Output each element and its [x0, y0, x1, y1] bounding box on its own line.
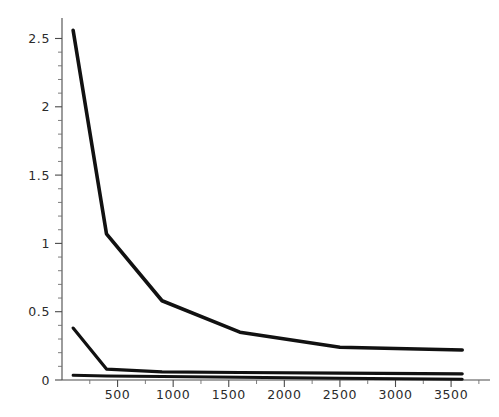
x-tick-label: 500 [105, 387, 131, 402]
y-axis-tick-labels: 00.511.522.5 [28, 31, 50, 388]
series-line-series-1 [73, 30, 462, 350]
line-chart-plot: 00.511.522.5 500100015002000250030003500 [0, 0, 499, 417]
y-tick-label: 0.5 [28, 304, 50, 319]
axes-group [62, 18, 490, 380]
x-tick-label: 3500 [434, 387, 468, 402]
y-tick-label: 0 [41, 373, 50, 388]
x-tick-label: 2000 [267, 387, 301, 402]
x-tick-label: 2500 [323, 387, 357, 402]
y-tick-label: 2.5 [28, 31, 50, 46]
x-axis-tick-labels: 500100015002000250030003500 [105, 387, 468, 402]
y-tick-label: 1.5 [28, 168, 50, 183]
x-tick-label: 1500 [212, 387, 246, 402]
y-tick-label: 2 [41, 99, 50, 114]
x-axis-ticks [90, 380, 479, 387]
x-tick-label: 3000 [378, 387, 412, 402]
x-tick-label: 1000 [156, 387, 190, 402]
chart-figure: 00.511.522.5 500100015002000250030003500 [0, 0, 499, 417]
y-tick-label: 1 [41, 236, 50, 251]
y-axis-ticks [55, 38, 62, 380]
series-line-series-3 [73, 375, 462, 379]
data-series-group [73, 30, 462, 379]
